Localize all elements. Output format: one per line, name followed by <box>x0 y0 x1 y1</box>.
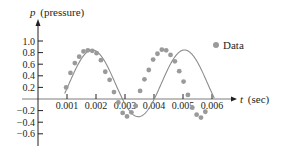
data-point <box>190 105 195 110</box>
y-tick-label: −0.4 <box>17 117 35 128</box>
x-tick-label: 0.001 <box>56 100 79 111</box>
data-point <box>85 48 90 53</box>
data-point <box>64 85 69 90</box>
y-tick-label: −0.2 <box>17 105 35 116</box>
y-axis-label: p (pressure) <box>29 6 85 19</box>
x-ticks: 0.0010.0020.0030.0040.0050.006 <box>56 94 224 111</box>
data-point <box>181 79 186 84</box>
data-point <box>168 53 173 58</box>
x-tick-label: 0.004 <box>143 100 166 111</box>
y-tick-label: 1.0 <box>23 36 36 47</box>
data-point <box>103 69 108 74</box>
data-point <box>112 90 117 95</box>
x-tick-label: 0.002 <box>85 100 108 111</box>
data-point <box>194 112 199 117</box>
data-point <box>77 54 82 59</box>
x-axis-label: t (sec) <box>240 93 270 106</box>
data-point <box>177 69 182 74</box>
data-point <box>125 114 130 119</box>
data-point <box>164 48 169 53</box>
data-point <box>146 68 151 73</box>
pressure-time-chart: 1.00.80.60.40.2−0.2−0.4−0.6 0.0010.0020.… <box>0 0 283 153</box>
y-tick-label: 0.4 <box>23 70 36 81</box>
data-point <box>186 93 191 98</box>
y-tick-label: −0.6 <box>17 128 35 139</box>
data-point <box>129 110 134 115</box>
data-point <box>99 58 104 63</box>
legend: Data <box>213 39 244 51</box>
data-point <box>94 51 99 56</box>
y-tick-label: 0.8 <box>23 47 36 58</box>
data-point <box>159 47 164 52</box>
legend-marker-icon <box>213 42 219 48</box>
data-point <box>142 77 147 82</box>
data-point <box>172 59 177 64</box>
legend-label: Data <box>223 39 244 51</box>
axes <box>22 19 237 146</box>
x-tick-label: 0.006 <box>201 100 224 111</box>
data-point <box>199 115 204 120</box>
data-point <box>133 104 138 109</box>
y-axis-arrow-icon <box>36 19 41 26</box>
data-point <box>155 51 160 56</box>
data-point <box>116 100 121 105</box>
data-point <box>81 49 86 54</box>
data-point <box>151 57 156 62</box>
data-point <box>107 77 112 82</box>
data-point <box>120 111 125 116</box>
data-point <box>203 109 208 114</box>
data-point <box>90 48 95 53</box>
y-ticks: 1.00.80.60.40.2−0.2−0.4−0.6 <box>17 36 43 140</box>
data-point <box>72 61 77 66</box>
x-axis-arrow-icon <box>231 97 237 102</box>
y-tick-label: 0.2 <box>23 82 36 93</box>
y-tick-label: 0.6 <box>23 59 36 70</box>
data-point <box>68 71 73 76</box>
data-point <box>138 88 143 93</box>
